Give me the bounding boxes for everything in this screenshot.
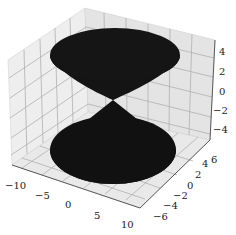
svg-text:−2: −2 <box>173 190 188 201</box>
svg-text:10: 10 <box>121 219 134 230</box>
svg-text:6: 6 <box>211 154 217 165</box>
svg-text:−10: −10 <box>5 180 26 191</box>
svg-text:−2: −2 <box>213 105 228 116</box>
svg-text:0: 0 <box>187 180 193 191</box>
svg-text:2: 2 <box>219 66 225 77</box>
chart-3d-plot: 4 2 0 −2 −4 −10 −5 0 5 10 −6 −4 −2 0 2 4… <box>0 0 236 235</box>
svg-text:2: 2 <box>195 169 201 180</box>
svg-text:0: 0 <box>219 86 225 97</box>
svg-text:−4: −4 <box>213 124 228 135</box>
svg-text:5: 5 <box>94 210 100 221</box>
z-axis-ticks: 4 2 0 −2 −4 <box>213 46 228 135</box>
svg-text:0: 0 <box>65 199 71 210</box>
svg-text:−6: −6 <box>153 211 168 222</box>
svg-text:4: 4 <box>219 46 225 57</box>
svg-text:−5: −5 <box>35 190 50 201</box>
svg-text:4: 4 <box>202 158 208 169</box>
svg-text:−4: −4 <box>163 200 178 211</box>
